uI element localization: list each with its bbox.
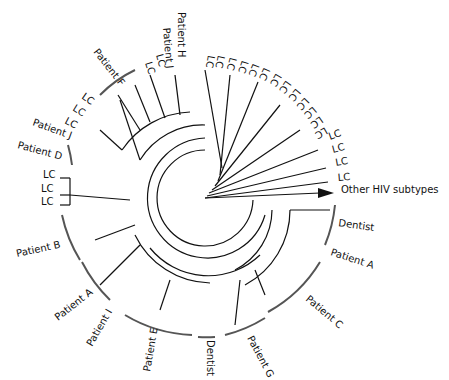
leaf-label: LC [71,102,87,118]
leaf-label: Patient A [329,246,375,270]
clade-brackets [62,70,335,337]
leaf-label: Dentist [205,340,216,376]
leaf-label: LC [41,183,54,194]
arrow-head-icon [318,188,334,198]
leaf-label: Patient B [15,239,61,259]
leaf-label: LC [43,169,56,180]
tree-branches [60,70,334,325]
leaf-label: Patient D [16,139,63,162]
leaf-label: LC [337,171,350,183]
leaf-label: Patient E [141,327,160,373]
leaf-label: Patient F [91,46,127,87]
leaf-label: LC [331,141,346,155]
leaf-label: Patient H [176,12,187,58]
outgroup-label: Other HIV subtypes [341,184,439,195]
leaf-label: Dentist [338,217,375,233]
leaf-label: LC [327,127,343,142]
leaf-label: Patient G [245,334,276,380]
leaf-label: LC [334,155,348,168]
leaf-label: LC [80,91,97,107]
leaf-label: Patient A [52,286,94,322]
leaf-label: LC [41,196,54,207]
leaf-label: Patient C [304,293,346,330]
leaf-label: Patient I [84,307,114,348]
leaf-label: LC [143,60,157,75]
